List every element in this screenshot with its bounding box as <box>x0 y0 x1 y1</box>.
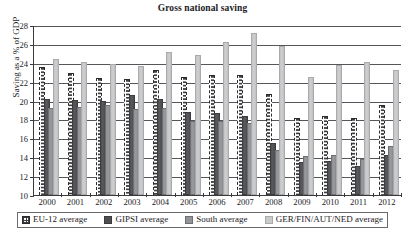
x-tick-label: 2006 <box>208 197 225 207</box>
bar <box>336 65 342 195</box>
x-tick-mark <box>316 193 317 197</box>
x-tick-mark <box>288 193 289 197</box>
bar <box>393 70 399 195</box>
y-tick-label: 18 <box>20 116 29 125</box>
bars-container <box>34 26 401 195</box>
bar-group <box>39 26 57 195</box>
chart-legend: EU-12 averageGIPSI averageSouth averageG… <box>17 212 388 228</box>
plot-area <box>33 26 401 196</box>
y-tick-label: 10 <box>20 192 29 201</box>
y-tick-label: 14 <box>20 154 29 163</box>
y-tick-label: 20 <box>20 97 29 106</box>
legend-swatch-icon <box>185 216 193 224</box>
bar-group <box>124 26 142 195</box>
y-tick-label: 28 <box>20 22 29 31</box>
y-tick-label: 26 <box>20 41 29 50</box>
x-tick-label: 2002 <box>95 197 112 207</box>
legend-label: South average <box>196 215 247 224</box>
legend-swatch-icon <box>104 216 112 224</box>
bar <box>195 55 201 195</box>
bar <box>279 46 285 195</box>
bar <box>364 62 370 195</box>
bar-group <box>96 26 114 195</box>
x-tick-mark <box>175 193 176 197</box>
legend-item[interactable]: South average <box>185 215 247 224</box>
bar <box>308 77 314 195</box>
chart-figure: Gross national saving Saving as a % of G… <box>0 0 405 238</box>
x-tick-label: 2010 <box>322 197 339 207</box>
y-tick-label: 24 <box>20 60 29 69</box>
y-tick-mark <box>30 26 34 27</box>
bar-group <box>294 26 312 195</box>
x-tick-mark <box>33 193 34 197</box>
bar-group <box>266 26 284 195</box>
y-tick-mark <box>30 139 34 140</box>
legend-label: GER/FIN/AUT/NED average <box>276 215 383 224</box>
x-tick-mark <box>118 193 119 197</box>
x-tick-label: 2000 <box>39 197 56 207</box>
x-tick-label: 2004 <box>152 197 169 207</box>
y-tick-mark <box>30 158 34 159</box>
legend-item[interactable]: GIPSI average <box>104 215 168 224</box>
legend-swatch-icon <box>22 216 30 224</box>
bar <box>251 33 257 195</box>
bar <box>53 59 59 195</box>
y-tick-mark <box>30 83 34 84</box>
y-tick-mark <box>30 177 34 178</box>
x-tick-label: 2009 <box>293 197 310 207</box>
bar-group <box>351 26 369 195</box>
bar <box>110 64 116 195</box>
bar-group <box>237 26 255 195</box>
x-tick-label: 2005 <box>180 197 197 207</box>
bar-group <box>209 26 227 195</box>
x-tick-label: 2008 <box>265 197 282 207</box>
bar-group <box>322 26 340 195</box>
x-tick-mark <box>203 193 204 197</box>
chart-title: Gross national saving <box>0 3 405 13</box>
legend-item[interactable]: EU-12 average <box>22 215 87 224</box>
bar-group <box>379 26 397 195</box>
x-tick-mark <box>344 193 345 197</box>
x-tick-mark <box>90 193 91 197</box>
y-tick-mark <box>30 102 34 103</box>
x-tick-label: 2001 <box>67 197 84 207</box>
bar <box>166 52 172 195</box>
x-tick-label: 2011 <box>350 197 367 207</box>
legend-swatch-icon <box>265 216 273 224</box>
y-tick-mark <box>30 64 34 65</box>
x-tick-mark <box>231 193 232 197</box>
x-tick-label: 2007 <box>237 197 254 207</box>
y-tick-label: 22 <box>20 78 29 87</box>
legend-label: GIPSI average <box>115 215 168 224</box>
bar <box>81 62 87 195</box>
x-tick-label: 2003 <box>123 197 140 207</box>
y-tick-mark <box>30 120 34 121</box>
x-tick-label: 2012 <box>378 197 395 207</box>
y-tick-mark <box>30 45 34 46</box>
x-tick-mark <box>146 193 147 197</box>
bar-group <box>181 26 199 195</box>
legend-label: EU-12 average <box>33 215 87 224</box>
y-tick-label: 16 <box>20 135 29 144</box>
x-tick-mark <box>401 193 402 197</box>
x-axis-labels: 2000200120022003200420052006200720082009… <box>33 197 401 211</box>
x-tick-mark <box>259 193 260 197</box>
x-tick-mark <box>61 193 62 197</box>
bar <box>223 42 229 195</box>
bar-group <box>68 26 86 195</box>
legend-item[interactable]: GER/FIN/AUT/NED average <box>265 215 383 224</box>
bar-group <box>153 26 171 195</box>
y-tick-label: 12 <box>20 173 29 182</box>
bar <box>138 66 144 195</box>
x-tick-mark <box>373 193 374 197</box>
